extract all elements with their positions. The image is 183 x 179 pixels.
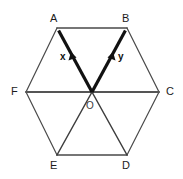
vertex-label-E: E xyxy=(50,160,57,171)
vertex-label-B: B xyxy=(122,13,129,24)
center-label-O: O xyxy=(86,101,94,111)
edge-BC xyxy=(127,28,159,92)
edge-EF xyxy=(26,92,57,155)
vector-label-y: y xyxy=(118,52,124,62)
edge-CD xyxy=(127,92,159,155)
vertex-label-A: A xyxy=(50,13,57,24)
hexagon-vector-figure: A B C D E F O x y xyxy=(0,0,183,179)
edge-FA xyxy=(26,28,57,92)
vector-label-x: x xyxy=(60,52,66,62)
segment-OD xyxy=(92,92,127,155)
hexagon-diagram-svg xyxy=(0,0,183,179)
vertex-label-C: C xyxy=(166,86,174,97)
vertex-label-F: F xyxy=(11,86,18,97)
vertex-label-D: D xyxy=(122,160,130,171)
